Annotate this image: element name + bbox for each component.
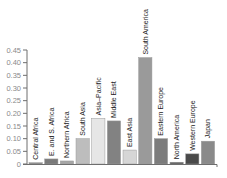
bar-north-america <box>170 162 183 164</box>
bar-east-asia <box>123 150 136 164</box>
bar-japan <box>201 141 214 164</box>
bar-central-africa <box>29 163 42 164</box>
y-tick-label: 0.25 <box>6 96 21 105</box>
y-tick-label: 0.35 <box>6 71 21 80</box>
y-tick-label: 0.40 <box>6 58 21 67</box>
y-tick-label: 0.45 <box>6 46 21 55</box>
bar-asia-pacific <box>92 118 105 164</box>
y-tick-label: 0.10 <box>6 134 21 143</box>
y-tick-label: 0.30 <box>6 84 21 93</box>
bar-eastern-europe <box>154 139 167 164</box>
category-label: Western Europe <box>189 100 197 151</box>
y-tick-label: 0 <box>17 160 21 169</box>
category-label: South America <box>142 9 149 55</box>
category-label: Middle East <box>110 81 117 118</box>
y-tick-label: 0.05 <box>6 147 21 156</box>
category-labels: Central AfricaE. and S. AfricaNorthern A… <box>32 9 212 160</box>
bar-e-and-s-africa <box>45 159 58 164</box>
bar-south-america <box>139 58 152 164</box>
category-label: E. and S. Africa <box>48 108 55 156</box>
bar-northern-africa <box>60 161 73 164</box>
category-label: Northern Africa <box>63 111 70 158</box>
category-label: South Asia <box>79 102 86 136</box>
category-label: North America <box>173 115 180 159</box>
y-tick-label: 0.20 <box>6 109 21 118</box>
category-label: East Asia <box>126 118 133 147</box>
bars <box>29 58 215 164</box>
bar-western-europe <box>186 154 199 164</box>
x-axis <box>23 165 217 168</box>
category-label: Central Africa <box>32 118 39 160</box>
category-label: Asia–Pacific <box>95 77 102 116</box>
bar-chart: 00.050.100.150.200.250.300.350.400.45 Ce… <box>0 0 227 178</box>
y-axis: 00.050.100.150.200.250.300.350.400.45 <box>6 46 27 169</box>
y-tick-label: 0.15 <box>6 122 21 131</box>
category-label: Japan <box>204 119 212 138</box>
bar-middle-east <box>107 121 120 164</box>
category-label: Eastern Europe <box>157 87 165 136</box>
bar-south-asia <box>76 139 89 164</box>
